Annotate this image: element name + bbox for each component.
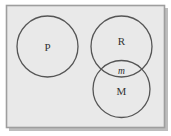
venn-diagram-figure: P R M m	[0, 0, 171, 136]
intersection-label-m: m	[118, 66, 125, 76]
circle-p-label: P	[44, 41, 50, 53]
circle-m-label: M	[117, 85, 127, 97]
venn-diagram-canvas: P R M m	[0, 0, 171, 136]
circle-r-label: R	[118, 35, 126, 47]
